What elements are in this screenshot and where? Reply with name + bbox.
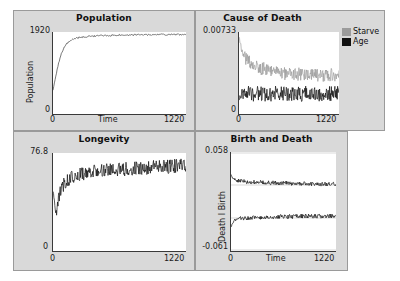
xtick-min-cause-of-death: 0: [236, 115, 241, 124]
ytick-max-cause-of-death: 0.00733: [194, 26, 236, 35]
ytick-max-birth-and-death: 0.058: [194, 146, 228, 155]
ylabel-population: Population: [26, 61, 35, 103]
xtick-min-birth-and-death: 0: [228, 254, 233, 263]
ytick-min-longevity: 0: [14, 242, 48, 251]
legend-item-starve: Starve: [342, 27, 379, 36]
plot-area-longevity: [52, 153, 186, 252]
birth-and-death-series-svg: [231, 152, 336, 251]
panel-title-longevity: Longevity: [14, 134, 194, 144]
ytick-min-population: 0: [16, 105, 50, 114]
xtick-max-longevity: 1220: [164, 254, 184, 263]
plot-area-birth-and-death: [230, 152, 336, 252]
xtick-min-population: 0: [50, 115, 55, 124]
panel-title-cause-of-death: Cause of Death: [196, 13, 329, 23]
cause-of-death-series-svg: [239, 32, 339, 114]
panel-longevity: Longevity 76.8 0 0 1220: [13, 131, 195, 271]
longevity-series-svg: [53, 153, 186, 251]
simulation-dashboard: Population 1920 0 Population 0 1220 Time…: [0, 0, 400, 281]
xtick-min-longevity: 0: [50, 254, 55, 263]
xlabel-birth-and-death: Time: [266, 254, 286, 263]
panel-population: Population 1920 0 Population 0 1220 Time: [13, 10, 195, 131]
xtick-max-cause-of-death: 1220: [316, 115, 336, 124]
ylabel-birth-and-death: Death I Birth: [218, 191, 227, 242]
xlabel-population: Time: [98, 115, 118, 124]
legend-label-age: Age: [353, 37, 368, 46]
ytick-min-birth-and-death: -0.061: [190, 242, 228, 251]
legend-item-age: Age: [342, 37, 379, 46]
legend-swatch-age: [342, 38, 351, 46]
xtick-max-birth-and-death: 1220: [314, 254, 334, 263]
panel-title-birth-and-death: Birth and Death: [196, 134, 347, 144]
population-series-svg: [53, 32, 186, 114]
plot-area-cause-of-death: [238, 32, 339, 115]
ytick-max-longevity: 76.8: [14, 147, 48, 156]
legend-swatch-starve: [342, 28, 351, 36]
ytick-min-cause-of-death: 0: [194, 105, 236, 114]
xtick-max-population: 1220: [164, 115, 184, 124]
legend-label-starve: Starve: [353, 27, 379, 36]
panel-title-population: Population: [14, 13, 194, 23]
legend-cause-of-death: Starve Age: [342, 27, 379, 47]
ytick-max-population: 1920: [16, 26, 50, 35]
panel-cause-of-death: Cause of Death 0.00733 0 0 1220 Starve A…: [195, 10, 385, 131]
panel-birth-and-death: Birth and Death 0.058 -0.061 Death I Bir…: [195, 131, 348, 271]
plot-area-population: [52, 32, 186, 115]
